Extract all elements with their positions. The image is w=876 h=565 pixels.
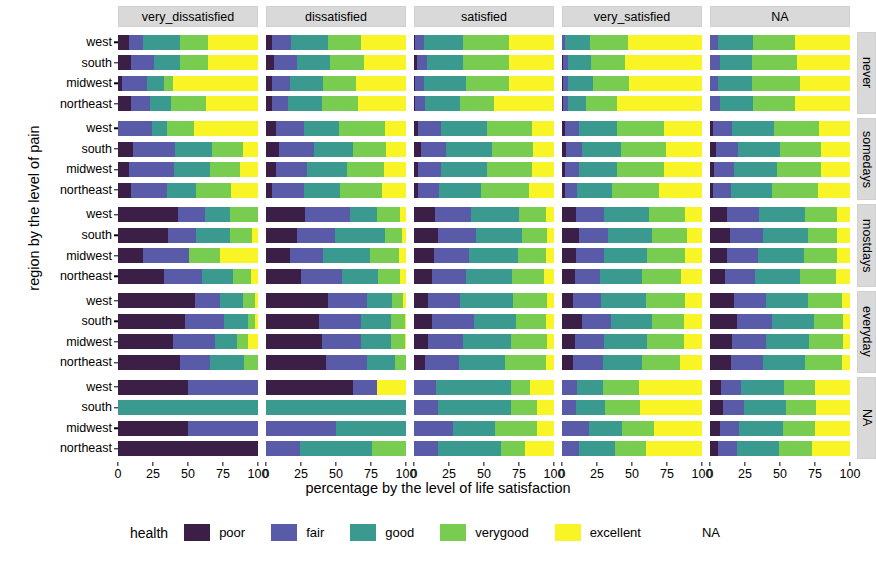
bar-segment-fair [710,96,720,111]
bar-segment-fair [326,355,367,370]
bar-segment-poor [266,121,276,136]
bar-segment-verygood [244,355,258,370]
legend-item-poor[interactable]: poor [184,524,245,541]
stacked-bar [710,55,850,70]
bar-segment-poor [266,162,276,177]
stacked-bar [414,400,554,415]
bar-segment-fair [435,207,471,222]
bar-segment-excellent [243,142,258,157]
stacked-bar [710,35,850,50]
bar-segment-poor [266,248,290,263]
bar-segment-verygood [808,228,837,243]
stacked-bar [266,314,406,329]
bar-segment-good [577,380,602,395]
x-tick [257,462,258,466]
y-tick-label-midwest: midwest [66,422,114,435]
bar-segment-fair [272,183,304,198]
legend-label: verygood [475,525,528,540]
bar-segment-excellent [252,228,258,243]
bar-segment-verygood [167,121,194,136]
stacked-bar [414,269,554,284]
stacked-bar [414,121,554,136]
bar-segment-verygood [772,183,818,198]
x-tick [553,462,554,466]
bar-segment-poor [710,248,727,263]
bar-segment-fair [122,76,147,91]
legend-item-good[interactable]: good [350,524,414,541]
bar-segment-fair [425,355,459,370]
bar-segment-good [314,142,353,157]
y-tick-label-midwest: midwest [66,163,114,176]
stacked-bar [118,183,258,198]
bar-segment-poor [118,142,133,157]
bar-segment-good [604,207,649,222]
bar-segment-good [755,269,800,284]
bar-segment-fair [730,228,764,243]
grid-corner-right [854,6,876,30]
bar-segment-poor [562,228,579,243]
bar-segment-fair [565,183,578,198]
bar-segment-good [579,121,617,136]
stacked-bar [266,96,406,111]
bar-segment-verygood [800,269,836,284]
bar-segment-fair [710,76,718,91]
bar-segment-good [291,35,327,50]
bar-segment-excellent [173,76,258,91]
stacked-bar [562,183,702,198]
x-tick [483,462,484,466]
bar-segment-poor [710,441,718,456]
legend-item-fair[interactable]: fair [271,524,324,541]
bar-segment-good [323,248,369,263]
bar-segment-good [604,248,647,263]
bar-segment-verygood [753,96,795,111]
bar-segment-good [220,293,242,308]
legend-item-excellent[interactable]: excellent [555,524,641,541]
bar-segment-good [215,334,237,349]
legend-item-na[interactable]: NA [667,524,720,541]
bar-segment-verygood [784,380,815,395]
x-tick-label: 50 [625,467,639,481]
bar-segment-excellent [680,355,702,370]
bar-segment-fair [129,162,174,177]
bar-segment-fair [573,293,601,308]
bar-segment-verygood [212,142,243,157]
bar-segment-good [763,228,808,243]
bar-segment-good [307,162,348,177]
stacked-bar [414,142,554,157]
bar-segment-poor [118,96,131,111]
bar-segment-verygood [752,76,800,91]
stacked-bar [710,162,850,177]
x-tick-label: 0 [411,467,418,481]
x-tick [448,462,449,466]
bar-segment-verygood [243,293,256,308]
stacked-bar [562,76,702,91]
legend-item-verygood[interactable]: verygood [440,524,528,541]
bar-segment-verygood [230,207,258,222]
bar-segment-verygood [164,76,172,91]
bar-segment-poor [118,334,173,349]
bar-segment-poor [414,207,435,222]
x-tick-label: 75 [808,467,822,481]
bar-segment-good [577,183,612,198]
bar-segment-fair [131,55,155,70]
stacked-bar [266,269,406,284]
stacked-bar [414,76,554,91]
stacked-bar [562,96,702,111]
facet-column-label: very_satisfied [594,10,670,24]
bar-segment-excellent [687,228,702,243]
bar-segment-verygood [463,55,509,70]
bar-segment-fair [272,96,289,111]
bar-segment-fair [434,248,469,263]
bar-segment-good [367,355,395,370]
x-axis-title: percentage by the level of life satisfac… [0,480,876,496]
bar-segment-fair [562,400,576,415]
stacked-bar [414,96,554,111]
bar-segment-fair [417,55,427,70]
x-tick-label: 25 [146,467,160,481]
stacked-bar [266,248,406,263]
bar-segment-fair [274,55,296,70]
panel-mostdays-na [710,202,850,288]
stacked-bar [414,228,554,243]
bar-segment-poor [118,35,129,50]
bar-segment-verygood [779,441,813,456]
